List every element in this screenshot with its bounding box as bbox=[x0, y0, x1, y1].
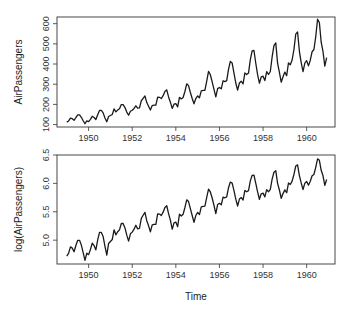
x-tick-label: 1952 bbox=[122, 133, 142, 143]
y-tick-label: 6.5 bbox=[41, 149, 51, 162]
chart-figure: 195019521954195619581960 100200300400500… bbox=[0, 0, 347, 310]
x-tick-label: 1954 bbox=[166, 133, 186, 143]
y-tick-label: 200 bbox=[41, 97, 51, 112]
x-tick-label: 1960 bbox=[297, 270, 317, 280]
top-y-axis-label: AirPassengers bbox=[13, 39, 24, 104]
y-tick-label: 400 bbox=[41, 57, 51, 72]
x-tick-label: 1954 bbox=[166, 270, 186, 280]
bottom-y-axis-label: log(AirPassengers) bbox=[13, 167, 24, 252]
x-tick-label: 1958 bbox=[253, 133, 273, 143]
top-plot-frame bbox=[57, 17, 335, 127]
y-tick-label: 5.0 bbox=[41, 234, 51, 247]
bottom-plot-frame bbox=[57, 155, 335, 264]
top-y-axis: 100200300400500600 bbox=[41, 16, 57, 132]
y-tick-label: 300 bbox=[41, 77, 51, 92]
x-tick-label: 1960 bbox=[297, 133, 317, 143]
y-tick-label: 600 bbox=[41, 16, 51, 31]
x-axis-label-time: Time bbox=[185, 291, 207, 302]
top-x-axis: 195019521954195619581960 bbox=[79, 127, 317, 143]
top-series-line bbox=[67, 19, 327, 124]
x-tick-label: 1956 bbox=[209, 133, 229, 143]
y-tick-label: 5.5 bbox=[41, 206, 51, 219]
y-tick-label: 100 bbox=[41, 117, 51, 132]
x-tick-label: 1950 bbox=[79, 133, 99, 143]
y-tick-label: 500 bbox=[41, 36, 51, 51]
y-tick-label: 6.0 bbox=[41, 177, 51, 190]
bottom-series-line bbox=[67, 159, 327, 261]
x-tick-label: 1950 bbox=[79, 270, 99, 280]
bottom-panel-log-airpassengers: 195019521954195619581960 5.05.56.06.5 lo… bbox=[13, 149, 335, 302]
bottom-x-axis: 195019521954195619581960 bbox=[79, 264, 317, 280]
top-panel-airpassengers: 195019521954195619581960 100200300400500… bbox=[13, 16, 335, 143]
x-tick-label: 1952 bbox=[122, 270, 142, 280]
bottom-y-axis: 5.05.56.06.5 bbox=[41, 149, 57, 247]
x-tick-label: 1956 bbox=[209, 270, 229, 280]
x-tick-label: 1958 bbox=[253, 270, 273, 280]
